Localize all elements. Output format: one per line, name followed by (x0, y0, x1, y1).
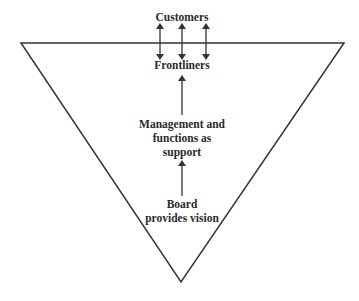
management-label-line3: support (163, 145, 201, 159)
frontliners-label: Frontliners (154, 58, 209, 72)
management-label-line2: functions as (153, 131, 211, 145)
board-label-line2: provides vision (145, 211, 219, 225)
management-label-line1: Management and (139, 117, 225, 131)
inverted-pyramid-diagram: Customers Frontliners Management and fun… (0, 0, 359, 301)
board-label-line1: Board (167, 197, 198, 211)
customers-label: Customers (155, 10, 208, 24)
